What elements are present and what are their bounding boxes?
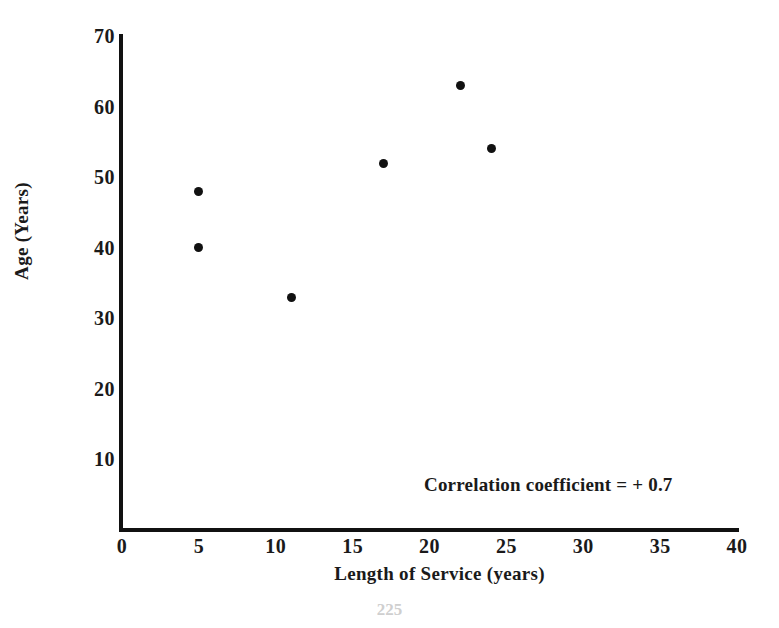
x-tick-label: 35 [640,536,680,556]
x-tick-label: 15 [333,536,373,556]
y-axis-title: Age (Years) [11,146,33,316]
x-axis-title: Length of Service (years) [0,563,779,585]
data-point [194,187,203,196]
x-tick-label: 5 [179,536,219,556]
x-tick-label: 40 [717,536,757,556]
data-point [194,243,203,252]
x-tick-label: 30 [563,536,603,556]
data-point [487,144,496,153]
data-point [287,293,296,302]
x-tick-label: 20 [410,536,450,556]
plot-area [122,36,737,530]
x-tick-label: 25 [486,536,526,556]
correlation-annotation: Correlation coefficient = + 0.7 [424,474,673,496]
x-tick-label: 10 [256,536,296,556]
x-axis-title-text: Length of Service (years) [234,563,545,584]
data-point [379,159,388,168]
page-number: 225 [0,600,779,620]
data-point [456,81,465,90]
scatter-plot-figure: 10203040506070 0510152025303540 Age (Yea… [0,0,779,628]
x-tick-label: 0 [102,536,142,556]
